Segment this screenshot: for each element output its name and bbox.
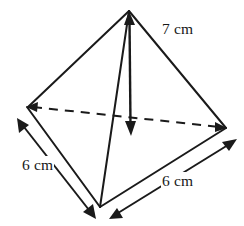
pyramid-diagram-svg	[0, 0, 244, 226]
height-arrow-down-head	[125, 121, 136, 136]
right-dimension-arrow-lower-head	[109, 208, 123, 219]
slant-height-label: 7 cm	[161, 20, 194, 38]
base-edge-right-label: 6 cm	[161, 172, 194, 190]
edge-apex-to-rear-left	[28, 11, 129, 107]
edge-apex-to-front	[100, 11, 129, 207]
base-edge-left-label: 6 cm	[21, 156, 54, 174]
edge-rear-right-to-front	[100, 128, 226, 207]
pyramid-figure: 7 cm 6 cm 6 cm	[0, 0, 244, 226]
right-dimension-arrow-upper-head	[222, 139, 237, 151]
height-arrow-shaft	[130, 20, 131, 126]
